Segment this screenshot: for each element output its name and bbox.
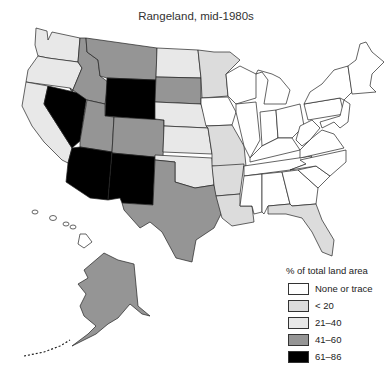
legend-swatch [288,283,309,295]
state-ak [72,253,150,346]
legend-item: 61–86 [286,348,392,365]
state-ks [163,126,212,154]
state-ar [212,164,244,196]
aleutian-islands [24,340,70,356]
state-sd [155,77,201,104]
state-mi [256,70,290,104]
state-nd [156,48,201,78]
state-co [112,117,164,158]
state-hi [32,210,92,248]
state-ia [201,97,236,126]
legend-swatch [288,351,309,363]
legend: % of total land area None or trace < 20 … [286,265,392,365]
legend-swatch [288,334,309,346]
legend-title: % of total land area [286,265,392,276]
state-wy [105,78,156,120]
legend-label: None or trace [315,283,373,294]
state-mo [206,125,246,168]
legend-item: < 20 [286,297,392,314]
state-ny [304,66,352,104]
legend-label: 21–40 [315,317,341,328]
legend-swatch [288,300,309,312]
state-fl [268,204,334,256]
state-nm [108,153,155,205]
legend-item: None or trace [286,280,392,297]
legend-swatch [288,317,309,329]
state-az [66,147,112,200]
state-wi [226,66,256,104]
legend-label: 41–60 [315,334,341,345]
state-new-england [348,42,384,94]
legend-label: < 20 [315,300,334,311]
legend-item: 41–60 [286,331,392,348]
legend-label: 61–86 [315,351,341,362]
legend-item: 21–40 [286,314,392,331]
